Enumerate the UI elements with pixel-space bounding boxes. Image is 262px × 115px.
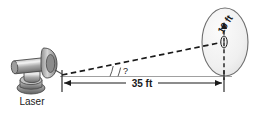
device-head-group	[41, 48, 62, 78]
laser-device	[11, 48, 62, 94]
angle-question-label: ?	[123, 66, 128, 76]
angle-marker	[110, 66, 121, 76]
laser-diagram-figure: ? 10 ft 35 ft	[0, 0, 262, 115]
diagram-canvas: ? 10 ft 35 ft	[0, 0, 262, 115]
distance-label: 35 ft	[132, 78, 153, 89]
distance-dimension: 35 ft	[62, 70, 224, 92]
device-emitter-lens	[46, 55, 54, 73]
laser-beam-dashed-line	[62, 43, 221, 76]
angle-arc-inner	[118, 68, 121, 77]
laser-caption-label: Laser	[19, 96, 45, 107]
device-emitter-stem	[55, 70, 62, 74]
angle-arc-outer	[110, 66, 113, 76]
